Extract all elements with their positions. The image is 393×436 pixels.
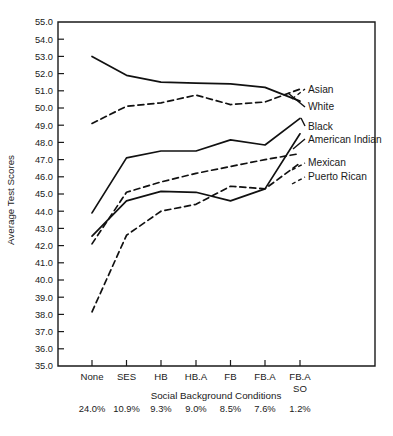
x-percent-label: 8.5%: [220, 403, 241, 414]
x-axis-ticks: [92, 360, 300, 366]
y-axis-ticks: [58, 39, 64, 349]
x-tick-label: HB: [154, 371, 167, 382]
x-tick-label: FB.A: [289, 371, 311, 382]
y-tick-label: 51.0: [35, 86, 53, 96]
y-tick-label: 47.0: [35, 155, 53, 165]
x-axis-title: Social Background Conditions: [151, 390, 282, 401]
x-percent-label: 7.6%: [254, 403, 275, 414]
legend-label-puerto-rican: Puerto Rican: [308, 171, 367, 182]
y-axis-title: Average Test Scores: [5, 155, 16, 245]
series-line-puerto-rican: [92, 163, 300, 312]
series-line-asian: [92, 89, 300, 123]
x-percent-label: 9.3%: [150, 403, 171, 414]
chart-container: 55.054.053.052.051.050.049.048.047.046.0…: [0, 0, 393, 436]
x-percent-label: 1.2%: [289, 403, 310, 414]
legend-leader-white: [288, 93, 305, 107]
y-tick-label: 37.0: [35, 327, 53, 337]
x-percent-label: 24.0%: [79, 403, 106, 414]
y-tick-label: 44.0: [35, 207, 53, 217]
y-tick-label: 41.0: [35, 258, 53, 268]
x-tick-label: FB: [224, 371, 236, 382]
y-tick-label: 39.0: [35, 293, 53, 303]
y-tick-label: 54.0: [35, 35, 53, 45]
legend-leader-puerto-rican: [292, 177, 305, 184]
legend-label-black: Black: [308, 121, 334, 132]
x-tick-label: None: [81, 371, 104, 382]
y-tick-label: 43.0: [35, 224, 53, 234]
y-tick-label: 46.0: [35, 172, 53, 182]
legend-leader-lines: [288, 89, 305, 184]
legend-label-american-indian: American Indian: [308, 134, 382, 145]
series-line-mexican: [92, 154, 300, 244]
y-tick-label: 45.0: [35, 189, 53, 199]
y-tick-label: 38.0: [35, 310, 53, 320]
y-tick-label: 55.0: [35, 17, 53, 27]
series-line-american-indian: [92, 134, 300, 236]
y-tick-label: 48.0: [35, 138, 53, 148]
y-tick-label: 50.0: [35, 103, 53, 113]
x-tick-label-line2: SO: [293, 383, 307, 394]
y-tick-label: 36.0: [35, 344, 53, 354]
x-tick-label: FB.A: [254, 371, 276, 382]
series-line-white: [92, 56, 300, 101]
data-series-group: [92, 56, 300, 311]
y-tick-label: 53.0: [35, 52, 53, 62]
legend-labels: AsianWhiteBlackAmerican IndianMexicanPue…: [308, 84, 382, 182]
legend-leader-black: [301, 118, 305, 126]
y-tick-label: 49.0: [35, 121, 53, 131]
x-tick-label: HB.A: [185, 371, 208, 382]
y-tick-label: 42.0: [35, 241, 53, 251]
x-percent-label: 10.9%: [113, 403, 140, 414]
y-tick-label: 35.0: [35, 361, 53, 371]
legend-label-asian: Asian: [308, 84, 333, 95]
line-chart: 55.054.053.052.051.050.049.048.047.046.0…: [0, 0, 393, 436]
y-tick-label: 52.0: [35, 69, 53, 79]
y-axis-tick-labels: 55.054.053.052.051.050.049.048.047.046.0…: [35, 17, 53, 371]
legend-label-mexican: Mexican: [308, 157, 346, 168]
x-tick-label: SES: [117, 371, 136, 382]
y-tick-label: 40.0: [35, 275, 53, 285]
legend-label-white: White: [308, 101, 334, 112]
x-percent-label: 9.0%: [185, 403, 206, 414]
x-axis-percent-labels: 24.0%10.9%9.3%9.0%8.5%7.6%1.2%: [79, 403, 311, 414]
